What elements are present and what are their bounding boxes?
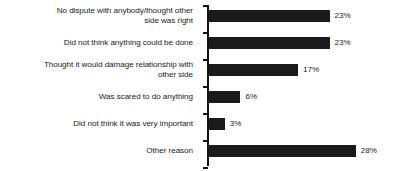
bar bbox=[209, 118, 225, 130]
bar-category-label: No dispute with anybody/thought other si… bbox=[3, 6, 193, 25]
bar-category-label: Did not think it was very important bbox=[3, 119, 193, 129]
axis-tick bbox=[203, 167, 208, 169]
bar bbox=[209, 64, 298, 76]
bar-value-label: 6% bbox=[245, 91, 257, 103]
bar-value-label: 17% bbox=[303, 64, 319, 76]
bar bbox=[209, 91, 240, 103]
bar-row: Did not think it was very important3% bbox=[0, 113, 394, 140]
bar bbox=[209, 37, 330, 49]
bar bbox=[209, 145, 356, 157]
bar-category-label: Thought it would damage relationship wit… bbox=[3, 60, 193, 79]
bar-row: Was scared to do anything6% bbox=[0, 86, 394, 113]
bar-value-label: 23% bbox=[335, 10, 351, 22]
bar-category-label: Did not think anything could be done bbox=[3, 38, 193, 48]
bar-value-label: 23% bbox=[335, 37, 351, 49]
bar-row: No dispute with anybody/thought other si… bbox=[0, 5, 394, 32]
bar-value-label: 28% bbox=[361, 145, 377, 157]
bar-value-label: 3% bbox=[230, 118, 242, 130]
horizontal-bar-chart: No dispute with anybody/thought other si… bbox=[0, 0, 394, 171]
bar-row: Did not think anything could be done23% bbox=[0, 32, 394, 59]
bar bbox=[209, 10, 330, 22]
bar-row: Other reason28% bbox=[0, 140, 394, 167]
bar-category-label: Was scared to do anything bbox=[3, 92, 193, 102]
bar-row: Thought it would damage relationship wit… bbox=[0, 59, 394, 86]
bar-category-label: Other reason bbox=[3, 146, 193, 156]
